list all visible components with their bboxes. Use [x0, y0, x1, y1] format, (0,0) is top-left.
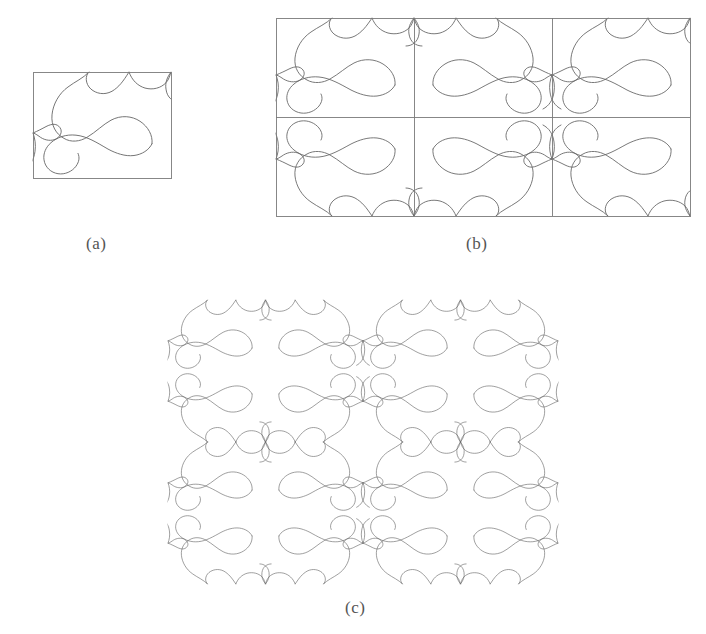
motif-stroke-5 [474, 484, 550, 510]
tile-motif-r3-c2 [357, 516, 467, 584]
panel-a-caption: (a) [86, 234, 106, 254]
motif-stroke-4 [266, 573, 296, 584]
motif-stroke-0 [206, 570, 236, 584]
motif-stroke-0 [401, 570, 431, 584]
motif-stroke-4 [648, 200, 690, 216]
motif-stroke-4 [414, 18, 456, 34]
motif-stroke-5 [279, 374, 355, 400]
motif-stroke-0 [401, 300, 431, 314]
motif-stroke-5 [433, 77, 541, 113]
motif-stroke-0 [490, 428, 520, 442]
motif-stroke-3 [571, 149, 671, 216]
motif-stroke-6 [556, 377, 564, 401]
motif-stroke-4 [236, 573, 266, 584]
motif-stroke-3 [433, 18, 533, 85]
motif-stroke-6 [361, 483, 369, 507]
figure-root: (a) (b) (c) [0, 0, 706, 634]
motif-stroke-4 [648, 18, 690, 34]
motif-stroke-6 [550, 125, 561, 159]
motif-stroke-3 [433, 149, 533, 216]
tile-motif-r1-c2 [543, 121, 698, 216]
motif-stroke-6 [357, 483, 365, 507]
motif-stroke-0 [295, 300, 325, 314]
motif-stroke-4 [266, 300, 296, 311]
tile-motif-r0-c1 [260, 300, 370, 368]
tile-motif-r0-c0 [24, 72, 179, 174]
tile-cell-r1-c1 [260, 374, 370, 442]
motif-stroke-5 [371, 484, 447, 510]
motif-stroke-4 [431, 442, 461, 453]
motif-stroke-5 [287, 121, 395, 157]
motif-stroke-6 [162, 341, 170, 365]
tile-motif-r3-c3 [455, 516, 565, 584]
motif-stroke-6 [543, 125, 554, 159]
tile-cell-r0-c0 [24, 72, 179, 174]
motif-stroke-0 [295, 442, 325, 456]
tile-cell-r2-c2 [357, 442, 467, 510]
motif-stroke-3 [181, 442, 252, 490]
motif-stroke-4 [461, 300, 491, 311]
motif-stroke-4 [431, 573, 461, 584]
tile-motif-r0-c0 [267, 18, 422, 113]
motif-stroke-0 [456, 18, 499, 38]
tile-cell-r1-c0 [267, 121, 422, 216]
panel-outer-frame [33, 72, 171, 178]
tile-cell-r0-c3 [455, 300, 565, 368]
motif-stroke-0 [490, 570, 520, 584]
tile-cell-r0-c2 [357, 300, 467, 368]
motif-stroke-6 [361, 519, 369, 543]
tile-cell-r1-c2 [357, 374, 467, 442]
tile-cell-r1-c1 [406, 121, 561, 216]
motif-stroke-3 [52, 72, 152, 144]
motif-stroke-5 [563, 121, 671, 157]
motif-stroke-5 [279, 516, 355, 542]
motif-stroke-0 [456, 196, 499, 216]
motif-stroke-6 [24, 133, 35, 169]
motif-stroke-5 [474, 342, 550, 368]
motif-stroke-3 [295, 149, 395, 216]
tile-motif-r1-c0 [162, 374, 272, 442]
tile-cell-r2-c1 [260, 442, 370, 510]
motif-stroke-0 [206, 300, 236, 314]
tile-cell-r0-c1 [260, 300, 370, 368]
tile-cell-r3-c3 [455, 516, 565, 584]
motif-stroke-6 [361, 341, 369, 365]
tile-motif-r0-c1 [406, 18, 561, 113]
motif-stroke-4 [266, 442, 296, 453]
motif-stroke-4 [266, 431, 296, 442]
motif-stroke-4 [236, 442, 266, 453]
tile-cell-r1-c3 [455, 374, 565, 442]
motif-stroke-3 [279, 536, 350, 584]
motif-stroke-4 [461, 573, 491, 584]
motif-stroke-3 [279, 394, 350, 442]
motif-stroke-2 [685, 188, 698, 216]
motif-stroke-3 [474, 536, 545, 584]
panel-c-caption: (c) [345, 598, 365, 618]
motif-stroke-5 [474, 374, 550, 400]
motif-stroke-6 [162, 519, 170, 543]
tile-motif-r3-c0 [162, 516, 272, 584]
panel-b-caption: (b) [466, 234, 487, 254]
motif-stroke-5 [176, 374, 252, 400]
motif-stroke-0 [401, 428, 431, 442]
motif-stroke-5 [371, 374, 447, 400]
tile-cell-r0-c0 [162, 300, 272, 368]
tile-motif-r1-c2 [357, 374, 467, 442]
panel-b-drawing [267, 18, 698, 216]
tile-cell-r0-c2 [543, 18, 698, 113]
tile-cell-r3-c1 [260, 516, 370, 584]
motif-stroke-5 [176, 342, 252, 368]
motif-stroke-3 [181, 394, 252, 442]
motif-stroke-0 [295, 428, 325, 442]
panel-tiles-seamless-tiling [162, 300, 565, 584]
motif-stroke-3 [376, 442, 447, 490]
motif-stroke-6 [550, 75, 561, 109]
motif-stroke-4 [461, 431, 491, 442]
motif-stroke-2 [166, 72, 179, 102]
motif-stroke-6 [162, 377, 170, 401]
motif-stroke-4 [372, 18, 414, 34]
motif-stroke-2 [685, 18, 698, 46]
motif-stroke-0 [206, 442, 236, 456]
motif-stroke-0 [401, 442, 431, 456]
tile-motif-r0-c3 [455, 300, 565, 368]
